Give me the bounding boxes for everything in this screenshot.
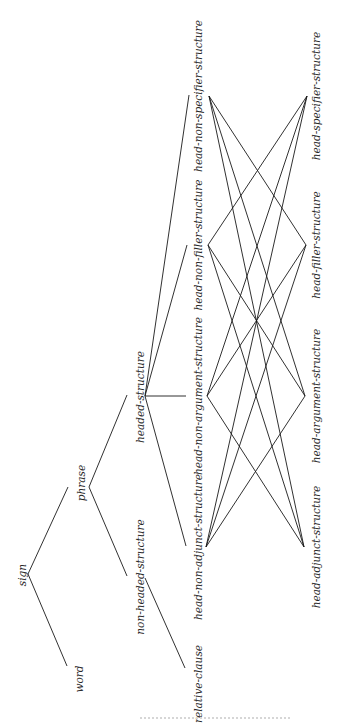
hierarchy-edge	[145, 95, 189, 396]
node-label-head-non-specifier-structure: head-non-specifier-structure	[192, 20, 204, 172]
node-label-head-specifier-structure: head-specifier-structure	[310, 32, 322, 160]
hierarchy-edge	[145, 578, 185, 668]
hierarchy-edges	[28, 95, 307, 668]
node-label-head-adjunct-structure: head-adjunct-structure	[310, 486, 322, 608]
node-label-head-non-argument-structure: head-non-argument-structure	[192, 317, 204, 475]
node-label-head-non-adjunct-structure: head-non-adjunct-structure	[192, 474, 204, 620]
hierarchy-edge	[28, 487, 68, 574]
node-label-non-headed-structure: non-headed-structure	[134, 519, 146, 634]
hierarchy-edge	[206, 396, 305, 547]
node-label-word: word	[73, 665, 85, 692]
hierarchy-edge	[207, 96, 307, 396]
hierarchy-edge	[208, 96, 307, 245]
hierarchy-edge	[89, 487, 127, 576]
hierarchy-edge	[89, 395, 127, 487]
node-label-sign: sign	[16, 564, 28, 586]
node-label-phrase: phrase	[75, 465, 87, 501]
node-label-headed-structure: headed-structure	[134, 351, 146, 443]
type-hierarchy-diagram: signwordphrasenon-headed-structureheaded…	[0, 0, 341, 725]
hierarchy-edge	[28, 574, 67, 666]
node-label-head-non-filler-structure: head-non-filler-structure	[192, 180, 204, 311]
hierarchy-edge	[206, 96, 307, 547]
hierarchy-labels: signwordphrasenon-headed-structureheaded…	[16, 20, 322, 723]
node-label-relative-clause: relative-clause	[192, 645, 204, 723]
hierarchy-edge	[145, 245, 187, 396]
hierarchy-edge	[145, 396, 186, 546]
hierarchy-edge	[206, 245, 306, 547]
node-label-head-argument-structure: head-argument-structure	[310, 329, 322, 463]
node-label-head-filler-structure: head-filler-structure	[310, 191, 322, 299]
